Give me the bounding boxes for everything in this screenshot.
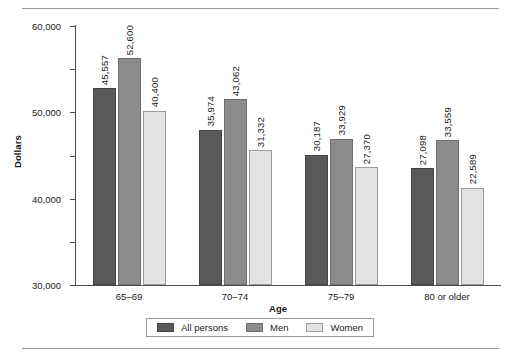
bar[interactable] <box>143 111 166 285</box>
bar-value-label: 30,187 <box>311 121 322 151</box>
legend-label: Women <box>330 322 363 333</box>
bar[interactable] <box>249 150 272 285</box>
bar[interactable] <box>224 99 247 285</box>
y-axis-title: Dollars <box>10 117 24 187</box>
bar[interactable] <box>355 167 378 285</box>
bar[interactable] <box>305 155 328 285</box>
plot-area: 010,00020,00030,00040,00050,00060,000 45… <box>76 26 500 285</box>
bar-group: 30,18733,92927,370 <box>288 26 394 285</box>
bar[interactable] <box>199 130 222 285</box>
legend-label: All persons <box>181 322 228 333</box>
bar-value-label: 52,600 <box>124 25 135 55</box>
top-divider-rule <box>22 8 499 9</box>
bar-value-label: 43,062 <box>230 66 241 96</box>
chart-legend: All personsMenWomen <box>146 318 374 337</box>
bar-value-label: 33,559 <box>442 107 453 137</box>
bar-value-label: 31,332 <box>255 117 266 147</box>
x-axis-line <box>75 285 501 286</box>
y-axis-tick-label: 50,000 <box>32 107 61 118</box>
figure: Dollars 010,00020,00030,00040,00050,0006… <box>0 0 521 357</box>
legend-item[interactable]: Women <box>306 322 363 333</box>
bar[interactable] <box>461 188 484 286</box>
bar-value-label: 27,370 <box>361 134 372 164</box>
bar-value-label: 40,400 <box>149 77 160 107</box>
y-axis-tick-label: 60,000 <box>32 21 61 32</box>
legend-item[interactable]: Men <box>246 322 288 333</box>
bar[interactable] <box>93 88 116 285</box>
y-axis-tick: 0 <box>70 285 76 286</box>
bar[interactable] <box>118 58 141 285</box>
legend-swatch <box>246 323 263 332</box>
bar-value-label: 27,098 <box>417 135 428 165</box>
bar-value-label: 35,974 <box>205 96 216 126</box>
bar-value-label: 45,557 <box>99 55 110 85</box>
bar-value-label: 22,589 <box>467 154 478 184</box>
x-axis-title: Age <box>238 303 318 314</box>
bottom-divider-rule <box>22 348 499 349</box>
x-axis-tick-label: 80 or older <box>394 291 500 302</box>
bar[interactable] <box>330 139 353 285</box>
legend-swatch <box>157 323 174 332</box>
legend-swatch <box>306 323 323 332</box>
bar-group: 45,55752,60040,400 <box>76 26 182 285</box>
x-axis-tick-label: 75–79 <box>288 291 394 302</box>
bar-value-label: 33,929 <box>336 105 347 135</box>
bar[interactable] <box>436 140 459 285</box>
bar-group: 35,97443,06231,332 <box>182 26 288 285</box>
legend-item[interactable]: All persons <box>157 322 228 333</box>
y-axis-tick-label: 40,000 <box>32 193 61 204</box>
bar-group: 27,09833,55922,589 <box>394 26 500 285</box>
x-axis-tick-label: 65–69 <box>76 291 182 302</box>
legend-label: Men <box>270 322 288 333</box>
x-axis-tick-label: 70–74 <box>182 291 288 302</box>
bar[interactable] <box>411 168 434 285</box>
y-axis-tick-label: 30,000 <box>32 280 61 291</box>
